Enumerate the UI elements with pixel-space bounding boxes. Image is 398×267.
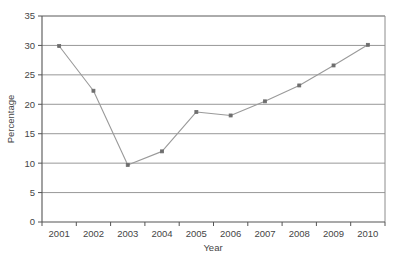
x-tick-label-2004: 2004 bbox=[151, 228, 172, 239]
data-point-2010 bbox=[366, 43, 369, 46]
y-tick-label-15: 15 bbox=[24, 128, 35, 139]
y-tick-label-0: 0 bbox=[30, 216, 35, 227]
chart-canvas: 05101520253035 2001200220032004200520062… bbox=[0, 0, 398, 267]
data-point-2001 bbox=[58, 45, 61, 48]
data-point-2004 bbox=[161, 150, 164, 153]
y-tick-label-25: 25 bbox=[24, 69, 35, 80]
x-tick-label-2010: 2010 bbox=[357, 228, 378, 239]
data-point-2006 bbox=[229, 114, 232, 117]
y-tick-label-10: 10 bbox=[24, 158, 35, 169]
x-axis-title: Year bbox=[203, 242, 222, 253]
data-point-2002 bbox=[92, 89, 95, 92]
data-point-2003 bbox=[126, 163, 129, 166]
line-chart-figure: 05101520253035 2001200220032004200520062… bbox=[0, 0, 398, 267]
x-tick-label-2002: 2002 bbox=[83, 228, 104, 239]
y-tick-label-35: 35 bbox=[24, 10, 35, 21]
x-tick-label-2008: 2008 bbox=[289, 228, 310, 239]
x-tick-label-2007: 2007 bbox=[254, 228, 275, 239]
y-tick-label-30: 30 bbox=[24, 40, 35, 51]
data-point-2005 bbox=[195, 110, 198, 113]
data-point-2008 bbox=[298, 84, 301, 87]
x-tick-label-2001: 2001 bbox=[49, 228, 70, 239]
y-axis-title: Percentage bbox=[5, 95, 16, 144]
data-point-2009 bbox=[332, 64, 335, 67]
x-tick-label-2006: 2006 bbox=[220, 228, 241, 239]
y-tick-label-20: 20 bbox=[24, 99, 35, 110]
x-tick-label-2003: 2003 bbox=[117, 228, 138, 239]
data-point-2007 bbox=[263, 100, 266, 103]
x-tick-label-2009: 2009 bbox=[323, 228, 344, 239]
x-tick-label-2005: 2005 bbox=[186, 228, 207, 239]
y-tick-label-5: 5 bbox=[30, 187, 35, 198]
